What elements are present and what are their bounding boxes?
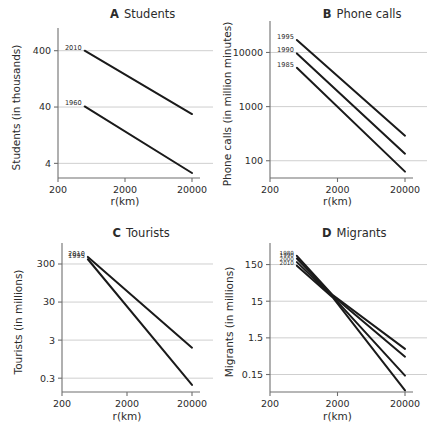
panel-d-plot: DMigrants0.151.5151502002000200001980199…	[213, 212, 433, 432]
data-line-1985	[297, 68, 405, 172]
series-labels: 199519901985	[277, 33, 294, 69]
x-axis-ticks: 200200020000	[53, 392, 207, 409]
x-tick-label: 20000	[390, 184, 420, 195]
x-axis-label: r(km)	[323, 410, 352, 422]
x-axis-label: r(km)	[111, 195, 140, 207]
panel-title-word: Students	[124, 7, 175, 21]
data-series-group	[297, 256, 405, 391]
panel-title: DMigrants	[322, 226, 387, 240]
y-tick-label: 4	[45, 158, 51, 169]
panel-d-migrants: DMigrants0.151.5151502002000200001980199…	[213, 212, 433, 432]
y-tick-label: 40	[39, 101, 51, 112]
series-labels: 20101960	[65, 44, 82, 108]
x-tick-label: 2000	[325, 184, 349, 195]
x-tick-label: 200	[261, 184, 279, 195]
panel-title-letter: D	[322, 226, 332, 240]
y-tick-label: 15	[251, 296, 263, 307]
data-series-group	[88, 257, 192, 385]
y-tick-label: 400	[33, 45, 51, 56]
data-line-1995	[297, 40, 405, 136]
panel-title: BPhone calls	[323, 7, 402, 21]
panel-a-students: AStudents44040020020002000020101960Stude…	[0, 0, 213, 212]
panel-a-plot: AStudents44040020020002000020101960Stude…	[0, 0, 213, 212]
panel-title-word: Migrants	[337, 226, 387, 240]
data-line-1990	[297, 53, 405, 153]
series-label-2010: 2010	[280, 260, 295, 266]
y-tick-label: 1.5	[248, 332, 263, 343]
x-tick-label: 200	[53, 398, 71, 409]
x-tick-label: 2000	[325, 398, 349, 409]
x-tick-label: 2000	[113, 184, 137, 195]
series-label-1995: 1995	[68, 252, 85, 260]
y-tick-label: 3	[49, 335, 55, 346]
figure-container: AStudents44040020020002000020101960Stude…	[0, 0, 433, 432]
panel-title-letter: C	[113, 226, 121, 240]
panel-b-plot: BPhone calls1001000100002002000200001995…	[213, 0, 433, 212]
x-axis-ticks: 200200020000	[261, 178, 420, 195]
series-label-1960: 1960	[65, 99, 82, 107]
axis-spines	[270, 21, 413, 178]
x-tick-label: 20000	[177, 184, 207, 195]
y-tick-label: 0.3	[40, 373, 55, 384]
data-line-1995	[88, 259, 192, 385]
x-axis-label: r(km)	[323, 195, 352, 207]
y-axis-label: Tourists (in millions)	[12, 270, 24, 376]
panel-title-word: Phone calls	[337, 7, 402, 21]
y-axis-gridlines: 440400	[33, 45, 213, 169]
y-tick-label: 30	[43, 296, 55, 307]
panel-title-letter: A	[110, 7, 119, 21]
data-line-2010	[85, 51, 192, 114]
y-tick-label: 1000	[239, 101, 263, 112]
y-axis-label: Migrants (in millions)	[223, 267, 235, 378]
x-axis-ticks: 200200020000	[49, 178, 207, 195]
y-tick-label: 10000	[233, 47, 263, 58]
x-axis-ticks: 200200020000	[261, 392, 420, 409]
series-label-1990: 1990	[277, 46, 294, 54]
series-labels: 1980199020002010	[280, 250, 295, 266]
data-series-group	[297, 40, 405, 172]
y-axis-label: Students (in thousands)	[10, 45, 22, 171]
y-axis-label: Phone calls (in million minutes)	[221, 22, 233, 187]
panel-title: AStudents	[110, 7, 175, 21]
series-label-1985: 1985	[277, 61, 294, 69]
y-tick-label: 150	[245, 259, 263, 270]
y-tick-label: 0.15	[242, 369, 263, 380]
series-labels: 20101995	[68, 250, 85, 260]
y-tick-label: 300	[37, 258, 55, 269]
x-tick-label: 200	[261, 398, 279, 409]
series-label-2010: 2010	[65, 44, 82, 52]
panel-title-word: Tourists	[125, 226, 170, 240]
y-axis-gridlines: 0.3330300	[37, 258, 213, 383]
x-tick-label: 2000	[115, 398, 139, 409]
panel-title: CTourists	[113, 226, 170, 240]
data-line-2010	[297, 266, 405, 391]
x-axis-label: r(km)	[113, 410, 142, 422]
data-series-group	[85, 51, 192, 173]
panel-c-plot: CTourists0.333030020020002000020101995To…	[0, 212, 213, 432]
panel-b-phone-calls: BPhone calls1001000100002002000200001995…	[213, 0, 433, 212]
x-tick-label: 20000	[390, 398, 420, 409]
data-line-1980	[297, 256, 405, 349]
x-tick-label: 20000	[177, 398, 207, 409]
y-tick-label: 100	[245, 155, 263, 166]
panel-title-letter: B	[323, 7, 332, 21]
series-label-1995: 1995	[277, 33, 294, 41]
x-tick-label: 200	[49, 184, 67, 195]
panel-c-tourists: CTourists0.333030020020002000020101995To…	[0, 212, 213, 432]
